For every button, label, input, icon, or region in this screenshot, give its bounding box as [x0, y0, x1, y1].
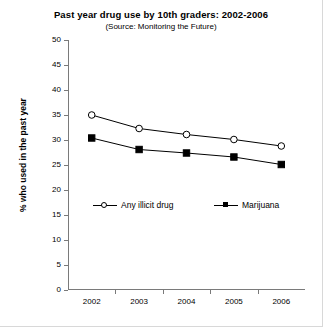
y-axis-tick-label: 10: [52, 236, 61, 244]
data-point-open-circle: [88, 112, 95, 119]
y-axis-tick-label: 50: [52, 36, 61, 44]
open-circle-marker-icon: [93, 200, 117, 210]
y-axis-tick-label: 35: [52, 111, 61, 119]
legend-item-marijuana: Marijuana: [214, 200, 279, 210]
x-axis-tick: [163, 290, 164, 294]
y-axis-tick-label: 40: [52, 86, 61, 94]
filled-square-marker-icon: [214, 200, 238, 210]
chart-subtitle: (Source: Monitoring the Future): [0, 21, 322, 32]
x-axis-tick-label: 2002: [83, 298, 101, 306]
series-plot: [68, 40, 305, 290]
page-title: Past year drug use by 10th graders: 2002…: [0, 9, 322, 21]
data-point-filled-square: [183, 150, 189, 156]
series-any-illicit-drug: [88, 112, 284, 150]
data-point-filled-square: [278, 161, 284, 167]
chart-legend: Any illicit drug Marijuana: [68, 196, 305, 218]
series-line: [92, 115, 282, 146]
y-axis-tick-label: 0: [57, 286, 61, 294]
x-axis-tick: [115, 290, 116, 294]
data-point-filled-square: [89, 135, 95, 141]
y-axis-tick: [64, 290, 68, 291]
series-marijuana: [89, 135, 285, 168]
x-axis-tick: [210, 290, 211, 294]
y-axis-tick-label: 45: [52, 61, 61, 69]
legend-label-marijuana: Marijuana: [242, 200, 279, 210]
y-axis-tick-label: 20: [52, 186, 61, 194]
plot-area: 05101520253035404550 2002200320042005200…: [68, 40, 305, 290]
y-axis-tick-label: 25: [52, 161, 61, 169]
chart-figure: Past year drug use by 10th graders: 2002…: [0, 0, 323, 327]
data-point-open-circle: [278, 143, 285, 150]
x-axis-tick-label: 2006: [272, 298, 290, 306]
legend-label-any-illicit-drug: Any illicit drug: [121, 200, 173, 210]
data-point-open-circle: [183, 131, 190, 138]
x-axis-tick-label: 2005: [225, 298, 243, 306]
data-point-filled-square: [231, 154, 237, 160]
y-axis-tick-label: 30: [52, 136, 61, 144]
y-axis-label: % who used in the past year: [18, 70, 28, 240]
chart-title-block: Past year drug use by 10th graders: 2002…: [0, 9, 322, 32]
data-point-open-circle: [136, 125, 143, 132]
x-axis-tick: [258, 290, 259, 294]
y-axis-tick-label: 5: [57, 261, 61, 269]
y-axis-tick-label: 15: [52, 211, 61, 219]
data-point-filled-square: [136, 146, 142, 152]
x-axis-tick-label: 2004: [178, 298, 196, 306]
data-point-open-circle: [231, 136, 238, 143]
legend-item-any-illicit-drug: Any illicit drug: [93, 200, 173, 210]
x-axis-tick-label: 2003: [130, 298, 148, 306]
